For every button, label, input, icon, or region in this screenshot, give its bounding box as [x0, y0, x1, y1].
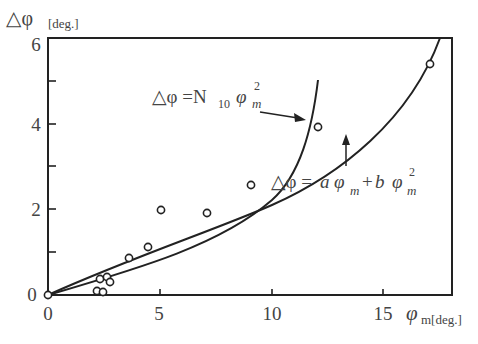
x-tick-10: 10	[263, 303, 282, 324]
y-tick-6: 6	[31, 34, 41, 55]
eq1-m: m	[252, 96, 261, 111]
eq2-sup: 2	[409, 165, 415, 179]
eq1-phi: φ	[236, 86, 247, 107]
x-tick-0: 0	[43, 303, 53, 324]
eq1-lhs: △φ =N	[152, 86, 207, 107]
eq1-sup: 2	[254, 79, 260, 93]
y-tick-0: 0	[27, 284, 37, 305]
x-tick-15: 15	[374, 303, 393, 324]
eq2-phi1: φ	[334, 171, 345, 192]
plot-frame	[48, 38, 452, 295]
x-tick-5: 5	[154, 303, 164, 324]
eq1-sub: 10	[218, 97, 230, 111]
curve-quadratic-linear	[48, 38, 440, 295]
x-axis-unit: m[deg.]	[421, 312, 462, 327]
annotation-quadratic: △φ = a φ m + b φ 2 m	[271, 134, 416, 198]
eq2-b: b	[375, 171, 385, 192]
eq2-a: a	[320, 171, 330, 192]
eq2-m1: m	[350, 183, 359, 198]
x-axis-symbol: φ	[406, 301, 418, 325]
annotation-n10: △φ =N 10 φ 2 m	[152, 79, 306, 122]
eq2-m2: m	[407, 183, 416, 198]
y-tick-4: 4	[31, 114, 41, 135]
eq2-plus: +	[362, 171, 373, 192]
y-axis-unit: [deg.]	[48, 16, 79, 31]
y-ticks	[48, 81, 56, 252]
y-axis-symbol: △φ	[6, 7, 33, 30]
y-tick-2: 2	[31, 199, 41, 220]
chart-canvas: 6 4 2 0 0 5 10 15 △φ [deg.] φ m[deg.] △φ…	[0, 0, 478, 344]
eq2-phi2: φ	[392, 171, 403, 192]
eq2-lhs: △φ =	[271, 171, 312, 192]
